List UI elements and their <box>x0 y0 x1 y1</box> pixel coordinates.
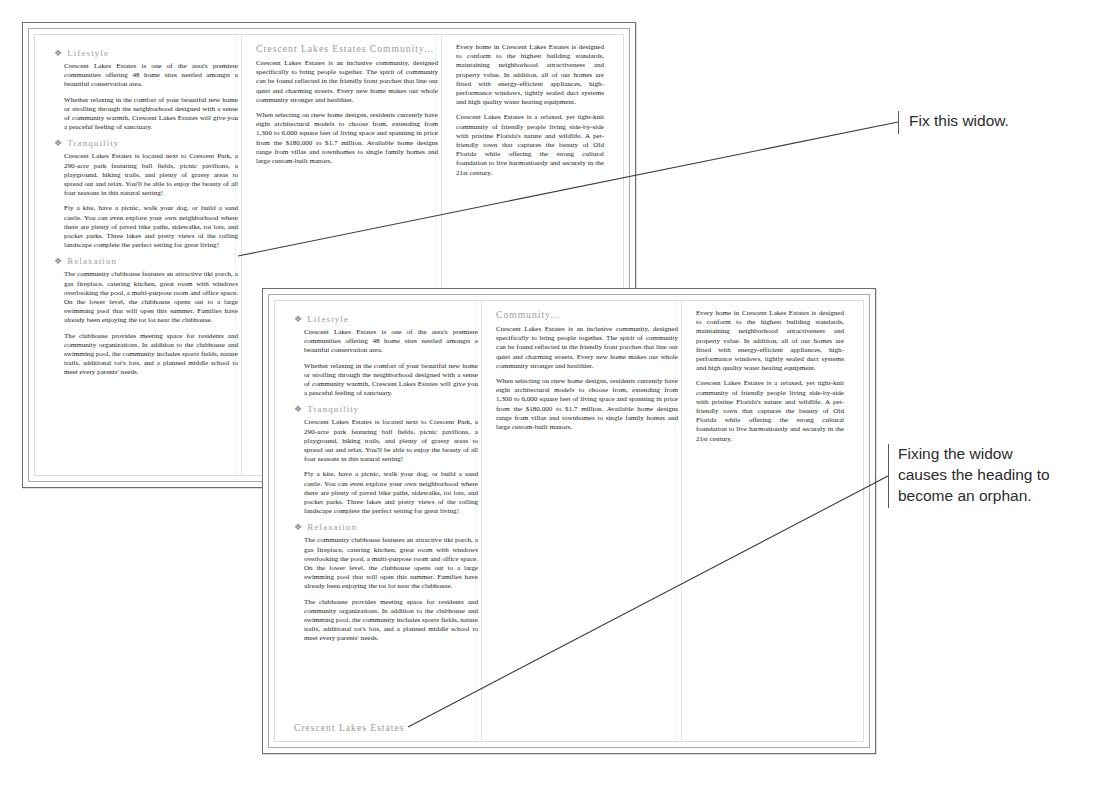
orphan-heading-footer: Crescent Lakes Estates <box>294 722 404 733</box>
section-heading-label: Tranquility <box>307 404 359 414</box>
body-paragraph: Crescent Lakes Estates is one of the are… <box>54 62 238 90</box>
body-paragraph: Crescent Lakes Estates is located next t… <box>294 418 478 464</box>
section-heading-label: Lifestyle <box>67 48 109 58</box>
body-paragraph: Crescent Lakes Estates is an inclusive c… <box>496 325 678 371</box>
body-paragraph: Crescent Lakes Estates is located next t… <box>54 152 238 198</box>
body-paragraph: Whether relaxing in the comfort of your … <box>294 362 478 399</box>
text-column-2-1[interactable]: ❖LifestyleCrescent Lakes Estates is one … <box>285 309 487 735</box>
body-paragraph: Crescent Lakes Estates is a relaxed, yet… <box>456 113 604 177</box>
diamond-bullet-icon: ❖ <box>294 522 303 532</box>
column-container-2: ❖LifestyleCrescent Lakes Estates is one … <box>275 301 863 741</box>
section-heading-lifestyle: ❖Lifestyle <box>54 48 238 59</box>
body-paragraph: Crescent Lakes Estates is a relaxed, yet… <box>696 379 844 443</box>
body-paragraph: The clubhouse provides meeting space for… <box>54 332 238 378</box>
annotation-orphan: Fixing the widow causes the heading to b… <box>898 443 1098 506</box>
body-paragraph: Fly a kite, have a picnic, walk your dog… <box>294 470 478 516</box>
body-paragraph: When selecting ou rnew home designs, res… <box>496 377 678 432</box>
section-heading-lifestyle: ❖Lifestyle <box>294 314 478 325</box>
diamond-bullet-icon: ❖ <box>294 404 303 414</box>
section-heading-label: Relaxation <box>307 522 357 532</box>
body-paragraph: When selecting ou rnew home designs, res… <box>256 111 438 166</box>
diamond-bullet-icon: ❖ <box>294 314 303 324</box>
section-heading-tranquility: ❖Tranquility <box>54 138 238 149</box>
diamond-bullet-icon: ❖ <box>54 256 63 266</box>
diamond-bullet-icon: ❖ <box>54 48 63 58</box>
section-heading-relaxation: ❖Relaxation <box>294 522 478 533</box>
section-heading-label: Lifestyle <box>307 314 349 324</box>
body-paragraph: Whether relaxing in the comfort of your … <box>54 96 238 133</box>
body-paragraph: Every home in Crescent Lakes Estates is … <box>456 43 604 107</box>
body-paragraph: Fly a kite, have a picnic, walk your dog… <box>54 204 238 250</box>
body-paragraph: Crescent Lakes Estates is one of the are… <box>294 328 478 356</box>
section-heading-label: Relaxation <box>67 256 117 266</box>
annotation-widow: Fix this widow. <box>909 110 1009 131</box>
article-heading: Crescent Lakes Estates Community... <box>256 43 438 55</box>
section-heading-label: Tranquility <box>67 138 119 148</box>
section-heading-tranquility: ❖Tranquility <box>294 404 478 415</box>
text-column-1-1[interactable]: ❖LifestyleCrescent Lakes Estates is one … <box>45 43 247 469</box>
article-heading: Community... <box>496 309 678 321</box>
annotation-bar-orphan <box>888 444 889 508</box>
body-paragraph: The community clubhouse features an attr… <box>294 536 478 591</box>
body-paragraph: Crescent Lakes Estates is an inclusive c… <box>256 59 438 105</box>
body-paragraph: Every home in Crescent Lakes Estates is … <box>696 309 844 373</box>
text-frame-2: ❖LifestyleCrescent Lakes Estates is one … <box>274 300 864 742</box>
body-paragraph: The community clubhouse features an attr… <box>54 270 238 325</box>
annotation-bar-widow <box>898 111 899 134</box>
text-column-2-2[interactable]: Community...Crescent Lakes Estates is an… <box>487 309 687 735</box>
text-column-2-3[interactable]: Every home in Crescent Lakes Estates is … <box>687 309 853 735</box>
section-heading-relaxation: ❖Relaxation <box>54 256 238 267</box>
document-page-2[interactable]: ❖LifestyleCrescent Lakes Estates is one … <box>262 288 876 754</box>
body-paragraph: The clubhouse provides meeting space for… <box>294 598 478 644</box>
diamond-bullet-icon: ❖ <box>54 138 63 148</box>
